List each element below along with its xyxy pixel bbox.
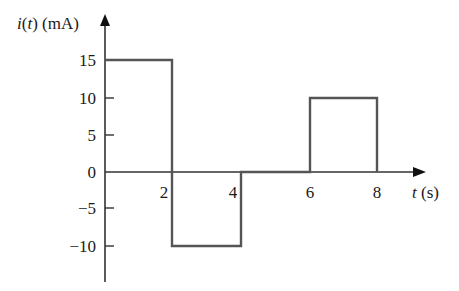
current-waveform-chart: 15 10 5 0 −5 −10 2 4 6 8 i(t) (mA) t (s) [0, 0, 459, 291]
y-tick-label: 15 [79, 51, 96, 70]
x-axis-label: t (s) [412, 183, 439, 202]
x-tick-labels: 2 4 6 8 [160, 183, 382, 202]
x-tick-label: 6 [306, 183, 315, 202]
y-tick-label: 0 [88, 163, 97, 182]
waveform-series [105, 60, 377, 246]
y-axis-arrow-icon [100, 14, 110, 26]
x-tick-label: 2 [160, 183, 169, 202]
y-tick-label: −10 [69, 237, 96, 256]
y-tick-label: 10 [79, 89, 96, 108]
x-tick-label: 4 [229, 183, 238, 202]
y-tick-labels: 15 10 5 0 −5 −10 [69, 51, 96, 256]
y-axis-label: i(t) (mA) [17, 14, 79, 33]
x-tick-label: 8 [373, 183, 382, 202]
x-axis-arrow-icon [413, 167, 426, 177]
y-tick-label: 5 [88, 126, 97, 145]
y-ticks [105, 60, 114, 246]
y-tick-label: −5 [78, 199, 96, 218]
